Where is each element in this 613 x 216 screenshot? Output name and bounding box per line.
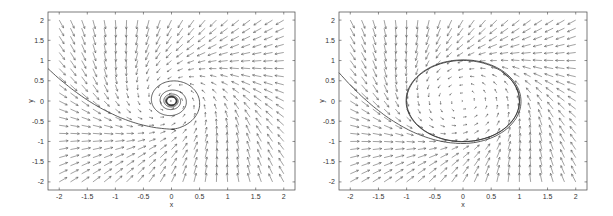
x-tick-label: 0 <box>461 193 465 200</box>
x-tick-label: 2 <box>282 193 286 200</box>
y-tick-label: 0.5 <box>34 77 44 84</box>
x-tick-label: 1 <box>517 193 521 200</box>
trajectory-curve <box>339 60 521 144</box>
x-tick-label: 1 <box>226 193 230 200</box>
x-tick-label: 0 <box>170 193 174 200</box>
x-axis-label: x <box>170 201 174 208</box>
y-axis-label: y <box>318 99 326 103</box>
x-tick-label: -1 <box>112 193 118 200</box>
x-tick-label: 1.5 <box>251 193 261 200</box>
y-tick-label: 1 <box>40 57 44 64</box>
y-tick-label: -1.5 <box>32 158 44 165</box>
x-tick-label: -1 <box>404 193 410 200</box>
vector-field <box>350 20 575 182</box>
x-tick-label: 1.5 <box>543 193 553 200</box>
y-tick-label: -0.5 <box>323 118 335 125</box>
y-tick-label: -0.5 <box>32 118 44 125</box>
y-axis-label: y <box>27 99 35 103</box>
x-tick-label: -2 <box>347 193 353 200</box>
x-axis-label: x <box>461 201 465 208</box>
x-tick-label: -1.5 <box>372 193 384 200</box>
x-tick-label: 0.5 <box>195 193 205 200</box>
x-tick-label: 2 <box>574 193 578 200</box>
right-phase-portrait: -2-1.5-1-0.500.511.5221.510.50-0.5-1-1.5… <box>318 12 587 208</box>
y-tick-label: 1.5 <box>34 37 44 44</box>
vector-field <box>59 20 284 182</box>
y-tick-label: 0.5 <box>325 77 335 84</box>
left-phase-portrait: -2-1.5-1-0.500.511.5221.510.50-0.5-1-1.5… <box>27 12 295 208</box>
y-tick-label: -1 <box>329 138 335 145</box>
phase-portrait-figure: -2-1.5-1-0.500.511.5221.510.50-0.5-1-1.5… <box>0 0 613 216</box>
y-tick-label: 1.5 <box>325 37 335 44</box>
x-tick-label: -1.5 <box>81 193 93 200</box>
y-tick-label: 0 <box>331 98 335 105</box>
y-tick-label: -2 <box>329 178 335 185</box>
y-tick-label: 0 <box>40 98 44 105</box>
figure: -2-1.5-1-0.500.511.5221.510.50-0.5-1-1.5… <box>0 0 613 216</box>
y-tick-label: 2 <box>40 17 44 24</box>
y-tick-label: -1.5 <box>323 158 335 165</box>
x-tick-label: -0.5 <box>137 193 149 200</box>
y-tick-label: -1 <box>38 138 44 145</box>
x-tick-label: 0.5 <box>486 193 496 200</box>
x-tick-label: -2 <box>56 193 62 200</box>
y-tick-label: 1 <box>331 57 335 64</box>
y-tick-label: 2 <box>331 17 335 24</box>
x-tick-label: -0.5 <box>429 193 441 200</box>
trajectory-curve <box>48 69 200 130</box>
y-tick-label: -2 <box>38 178 44 185</box>
